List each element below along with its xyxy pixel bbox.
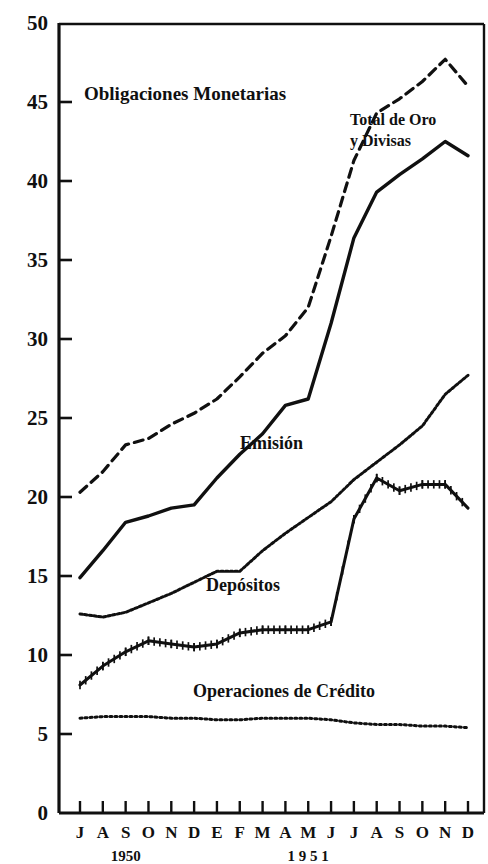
x-axis-tick-label: D: [188, 823, 200, 842]
series-annotation-total-oro-line1: Total de Oro: [350, 111, 436, 128]
series-annotation-operaciones: Operaciones de Crédito: [193, 681, 375, 701]
x-axis-tick-label: O: [142, 823, 155, 842]
y-axis-tick-label: 40: [27, 169, 48, 193]
x-axis-tick-label: M: [255, 823, 271, 842]
x-axis-tick-label: A: [279, 823, 292, 842]
series-annotation-depositos: Depósitos: [206, 575, 280, 595]
x-axis-tick-label: J: [350, 823, 359, 842]
chart-title: Obligaciones Monetarias: [84, 83, 286, 104]
y-axis-tick-label: 50: [27, 11, 48, 35]
y-axis-tick-label: 5: [38, 722, 49, 746]
x-axis-tick-label: D: [462, 823, 474, 842]
chart-figure: 05101520253035404550 JASONDEFMAMJJASOND …: [0, 0, 488, 864]
year-label-1950: 1950: [111, 848, 141, 864]
y-axis-tick-label: 35: [27, 248, 48, 272]
monetary-obligations-chart: 05101520253035404550 JASONDEFMAMJJASOND …: [0, 0, 488, 864]
x-axis-tick-label: O: [416, 823, 429, 842]
y-axis-tick-label: 30: [27, 327, 48, 351]
y-axis-tick-label: 10: [27, 643, 48, 667]
x-axis-tick-label: N: [439, 823, 452, 842]
series-annotation-total-oro-line2: y Divisas: [350, 132, 411, 150]
y-axis-tick-label: 0: [38, 801, 49, 825]
y-axis-tick-label: 20: [27, 485, 48, 509]
y-axis-tick-label: 45: [27, 90, 48, 114]
x-axis-tick-label: M: [300, 823, 316, 842]
x-axis-tick-label: J: [327, 823, 336, 842]
x-axis-tick-label: S: [395, 823, 404, 842]
x-axis-tick-label: A: [371, 823, 384, 842]
x-axis-tick-label: N: [165, 823, 178, 842]
y-axis-tick-label: 15: [27, 564, 48, 588]
series-annotation-emision: Emisión: [240, 433, 303, 453]
x-axis-tick-label: A: [97, 823, 110, 842]
x-axis-tick-label: S: [121, 823, 130, 842]
x-axis-tick-label: E: [211, 823, 222, 842]
x-axis-tick-label: J: [76, 823, 85, 842]
year-label-1951: 1 9 5 1: [288, 848, 329, 864]
x-axis-tick-label: F: [235, 823, 245, 842]
y-axis-tick-label: 25: [27, 406, 48, 430]
